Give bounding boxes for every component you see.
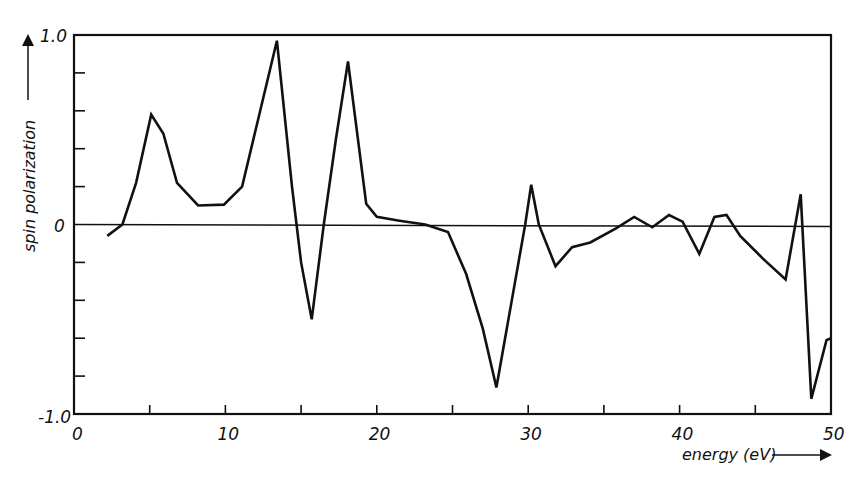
spin-polarization-chart: 1.0 0 -1.0 01020304050 spin polarization… bbox=[0, 0, 859, 490]
y-label-top: 1.0 bbox=[40, 26, 67, 46]
y-label-bottom: -1.0 bbox=[38, 407, 71, 427]
x-tick-label: 10 bbox=[217, 424, 239, 444]
axis-ticks bbox=[74, 73, 755, 414]
x-tick-label: 40 bbox=[672, 424, 694, 444]
x-tick-label: 30 bbox=[520, 424, 542, 444]
x-tick-label: 0 bbox=[72, 424, 83, 444]
y-label-zero: 0 bbox=[54, 216, 65, 236]
x-tick-label: 20 bbox=[369, 424, 391, 444]
x-tick-labels: 01020304050 bbox=[72, 424, 845, 444]
x-tick-label: 50 bbox=[823, 424, 845, 444]
spin-polarization-curve bbox=[107, 41, 831, 399]
y-axis-title: spin polarization bbox=[20, 120, 39, 252]
zero-line bbox=[74, 225, 831, 227]
x-axis-title: energy (eV) bbox=[682, 445, 776, 464]
